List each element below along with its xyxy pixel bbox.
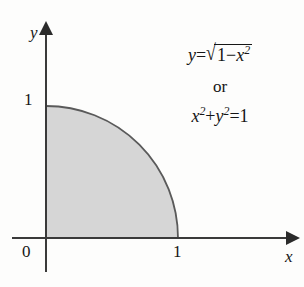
y-axis-label: y [30,24,38,41]
equation-annotation-block: y=√1−x2 or x2+y2=1 [142,44,298,125]
implicit-y: y [216,106,224,126]
scan-bleed-artifact [40,266,270,280]
y-axis-arrow-icon [39,21,53,35]
implicit-equals-sign: = [229,106,239,126]
figure-container: y x 0 1 1 y=√1−x2 or x2+y2=1 [0,0,304,287]
implicit-plus-sign: + [205,106,215,126]
equation-line-implicit: x2+y2=1 [142,107,298,125]
equation-equals-sign: = [196,45,206,65]
equation-connector-or: or [142,78,298,95]
y-axis-tick-label-1: 1 [24,91,33,108]
x-axis-tick-label-1: 1 [173,243,182,260]
origin-label: 0 [22,243,31,260]
radical-expression: √1−x2 [206,44,252,64]
x-axis-arrow-icon [286,231,300,245]
square-root-icon: √ [206,42,216,65]
x-axis-label: x [285,248,293,265]
radicand-minus-sign: − [226,45,236,65]
shaded-region [46,106,178,238]
equation-line-explicit: y=√1−x2 [142,44,298,64]
implicit-rhs-one: 1 [240,106,249,126]
radicand-x-exponent: 2 [244,43,250,57]
equation-lhs-y: y [188,45,196,65]
radicand-one: 1 [217,45,226,65]
radicand: 1−x2 [214,44,252,64]
radicand-x: x [236,45,244,65]
